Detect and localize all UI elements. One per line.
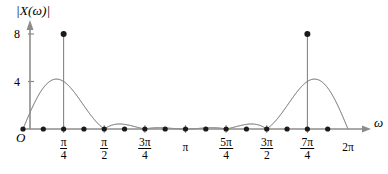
spectrum-curve <box>23 79 348 129</box>
x-axis-label: ω <box>374 116 383 129</box>
magnitude-spectrum-figure: |X(ω)| ω O 84 π4π23π4π5π43π27π42π <box>0 0 388 174</box>
zero-crossing-marker <box>264 126 269 131</box>
fraction-denominator: 4 <box>301 149 315 161</box>
fraction: 3π2 <box>260 136 274 161</box>
x-tick-label: 3π2 <box>260 136 274 162</box>
y-tick-label: 8 <box>6 28 20 40</box>
x-tick-label: 7π4 <box>301 136 315 162</box>
fraction-denominator: 2 <box>100 149 108 161</box>
fraction: π2 <box>100 136 108 161</box>
fraction-numerator: π <box>60 136 68 149</box>
plot-canvas <box>0 0 388 174</box>
tick-text: 2π <box>342 136 354 154</box>
x-tick-label: π <box>183 136 189 154</box>
zero-crossing-marker <box>102 126 107 131</box>
y-axis-arrowhead <box>27 20 34 30</box>
fraction-numerator: 3π <box>260 136 274 149</box>
fraction-numerator: π <box>100 136 108 149</box>
zero-crossing-marker <box>61 126 66 131</box>
x-tick-label: π2 <box>100 136 108 162</box>
fraction: π4 <box>60 136 68 161</box>
zero-crossing-marker <box>81 126 86 131</box>
y-axis-label: |X(ω)| <box>16 4 50 18</box>
origin-label: O <box>16 131 25 144</box>
fraction-numerator: 7π <box>301 136 315 149</box>
fraction-denominator: 2 <box>260 149 274 161</box>
fraction: 7π4 <box>301 136 315 161</box>
y-tick-label: 4 <box>6 76 20 88</box>
zero-crossing-marker <box>224 126 229 131</box>
main-lobe-peak-marker-1 <box>304 31 310 37</box>
fraction-numerator: 3π <box>138 136 152 149</box>
zero-crossing-marker <box>183 126 188 131</box>
zero-crossing-marker <box>284 126 289 131</box>
x-tick-label: 5π4 <box>219 136 233 162</box>
fraction-denominator: 4 <box>219 149 233 161</box>
zero-crossing-marker <box>305 126 310 131</box>
zero-crossing-marker <box>122 126 127 131</box>
main-lobe-peak-marker-0 <box>61 31 67 37</box>
x-tick-label: 2π <box>342 136 354 154</box>
zero-crossing-marker <box>142 126 147 131</box>
zero-crossing-marker <box>325 126 330 131</box>
zero-crossing-marker <box>244 126 249 131</box>
x-tick-label: 3π4 <box>138 136 152 162</box>
x-axis-arrowhead <box>362 126 371 133</box>
zero-crossing-marker <box>163 126 168 131</box>
fraction: 3π4 <box>138 136 152 161</box>
fraction: 5π4 <box>219 136 233 161</box>
fraction-numerator: 5π <box>219 136 233 149</box>
fraction-denominator: 4 <box>138 149 152 161</box>
fraction-denominator: 4 <box>60 149 68 161</box>
x-tick-label: π4 <box>60 136 68 162</box>
zero-crossing-marker <box>41 126 46 131</box>
tick-text: π <box>183 136 189 154</box>
zero-crossing-marker <box>203 126 208 131</box>
